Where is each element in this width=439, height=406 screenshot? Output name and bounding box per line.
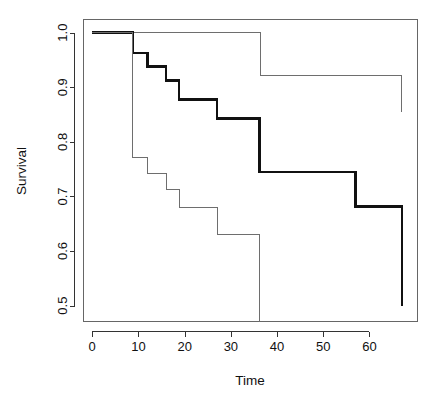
x-tick-label: 0 (89, 339, 96, 354)
y-tick-label: 0.6 (56, 242, 71, 260)
y-tick-label: 0.5 (56, 297, 71, 315)
x-tick-label: 20 (177, 339, 191, 354)
survival-chart-svg: 0.50.60.70.80.91.0 0102030405060 Surviva… (0, 0, 439, 406)
y-axis-title: Survival (14, 147, 29, 195)
x-tick-label: 30 (224, 339, 238, 354)
y-tick-label: 1.0 (56, 24, 71, 42)
x-tick-label: 50 (316, 339, 330, 354)
x-axis-title: Time (235, 373, 265, 388)
y-tick-label: 0.9 (56, 78, 71, 96)
y-tick-label: 0.7 (56, 187, 71, 205)
x-tick-label: 60 (362, 339, 376, 354)
x-tick-label: 10 (131, 339, 145, 354)
survival-plot-figure: 0.50.60.70.80.91.0 0102030405060 Surviva… (0, 0, 439, 406)
y-tick-label: 0.8 (56, 133, 71, 151)
x-tick-label: 40 (270, 339, 284, 354)
